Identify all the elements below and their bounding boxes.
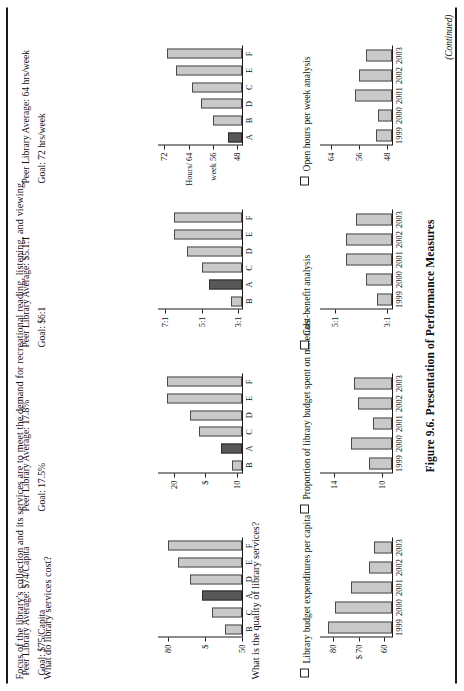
plot-area: 72Hours/ 64week 5648ABDCEF	[158, 45, 242, 145]
x-axis	[392, 373, 393, 473]
y-axis-tick	[168, 637, 169, 641]
x-axis-category-label: 1999	[395, 289, 404, 309]
x-axis-category-label: 2000	[395, 269, 404, 289]
y-axis-tick-label: 48	[233, 152, 242, 160]
peer-chart-block-3: 7:15:13:1BACDEF	[150, 189, 270, 349]
x-axis	[392, 537, 393, 637]
x-axis-category-label: E	[245, 554, 254, 571]
chart-title-text: Open hours per week analysis	[301, 56, 312, 171]
y-axis-tick-label: 50	[238, 644, 247, 652]
y-axis-tick	[237, 473, 238, 477]
bar	[354, 377, 392, 389]
x-axis-category-label: D	[245, 406, 254, 423]
bar	[192, 82, 242, 92]
bar	[377, 293, 392, 305]
y-axis-tick	[335, 309, 336, 313]
bar	[369, 457, 392, 469]
x-axis-category-label: F	[245, 209, 254, 226]
x-axis	[242, 537, 243, 637]
goal-note: Goal: $75/Capita	[36, 609, 47, 675]
bar	[374, 541, 392, 553]
y-axis-tick-label: week 56	[208, 152, 217, 180]
y-axis-tick-label: 10	[378, 480, 387, 488]
x-axis-category-label: 2002	[395, 393, 404, 413]
x-axis-category-label: 1999	[395, 125, 404, 145]
y-axis	[158, 636, 242, 637]
bar	[356, 213, 392, 225]
bar	[369, 561, 392, 573]
chart-title: Open hours per week analysis	[300, 56, 312, 185]
x-axis	[242, 209, 243, 309]
y-axis	[320, 636, 392, 637]
bar	[174, 212, 242, 222]
x-axis-category-label: 2003	[395, 45, 404, 65]
peer-average-note: Peer Library Average: 64 hrs/week	[20, 49, 31, 183]
y-axis-tick-label: 20	[169, 480, 178, 488]
bar	[335, 601, 392, 613]
x-axis-category-label: F	[245, 373, 254, 390]
y-axis-tick	[331, 145, 332, 149]
chart-title: Cost-benefit analysis	[300, 254, 312, 349]
x-axis-category-label: 2001	[395, 577, 404, 597]
bar	[328, 621, 392, 633]
plot-area: 5:13:119992000200120022003	[320, 209, 392, 309]
x-axis-category-label: 2002	[395, 65, 404, 85]
bar	[212, 607, 242, 617]
y-axis-tick-label: Hours/ 64	[184, 152, 193, 185]
x-axis-category-label: 2003	[395, 209, 404, 229]
goal-note: Goal: 72 hrs/week	[36, 113, 47, 183]
page-rule-top	[6, 7, 8, 683]
chart-title-text: Library budget expenditures per capita	[301, 514, 312, 663]
y-axis-tick	[237, 145, 238, 149]
bar	[232, 460, 242, 470]
bar	[376, 129, 392, 141]
y-axis-tick-label: 60	[380, 644, 389, 652]
x-axis-category-label: A	[245, 276, 254, 293]
y-axis-tick-label: 80	[163, 644, 172, 652]
bar	[355, 89, 392, 101]
x-axis-category-label: E	[245, 62, 254, 79]
plot-area: 7:15:13:1BACDEF	[158, 209, 242, 309]
y-axis-tick	[174, 473, 175, 477]
plot-area: 80$50BCADEF	[158, 537, 242, 637]
continued-label: (Continued)	[444, 14, 454, 59]
y-axis-tick-label: 10	[232, 480, 241, 488]
bar	[168, 540, 242, 550]
y-axis	[158, 472, 242, 473]
x-axis-category-label: D	[245, 95, 254, 112]
bar	[209, 279, 242, 289]
bar	[190, 410, 242, 420]
bar	[366, 49, 392, 61]
x-axis-category-label: 2002	[395, 557, 404, 577]
x-axis-category-label: F	[245, 45, 254, 62]
peer-average-note: Peer Library Average: $5.1:1	[20, 236, 31, 347]
x-axis	[242, 373, 243, 473]
trend-chart-block-2: Proportion of library budget spent on ma…	[300, 353, 420, 513]
y-axis	[158, 308, 242, 309]
bar	[202, 590, 242, 600]
bar	[178, 557, 242, 567]
x-axis-category-label: 2001	[395, 249, 404, 269]
y-axis-tick-label: 14	[330, 480, 339, 488]
x-axis-category-label: D	[245, 570, 254, 587]
page-stage: Focus of the library's collection and it…	[0, 0, 464, 691]
x-axis-category-label: C	[245, 78, 254, 95]
x-axis-category-label: 1999	[395, 617, 404, 637]
bar	[190, 574, 242, 584]
figure-caption: Figure 9.6. Presentation of Performance …	[424, 0, 437, 691]
y-axis-tick	[334, 473, 335, 477]
y-axis-tick	[333, 637, 334, 641]
y-axis-tick	[189, 145, 190, 149]
x-axis-category-label: 2000	[395, 105, 404, 125]
trend-chart-block-3: Cost-benefit analysis5:13:11999200020012…	[300, 189, 420, 349]
y-axis-tick-label: 56	[354, 152, 363, 160]
y-axis-tick	[387, 309, 388, 313]
peer-chart-block-2: 20$10BACDEF	[150, 353, 270, 513]
y-axis-tick-label: 48	[382, 152, 391, 160]
x-axis-category-label: 1999	[395, 453, 404, 473]
y-axis	[320, 308, 392, 309]
y-axis	[320, 472, 392, 473]
y-axis-tick	[202, 309, 203, 313]
chart-title-text: Cost-benefit analysis	[301, 254, 312, 335]
y-axis-tick	[205, 473, 206, 477]
